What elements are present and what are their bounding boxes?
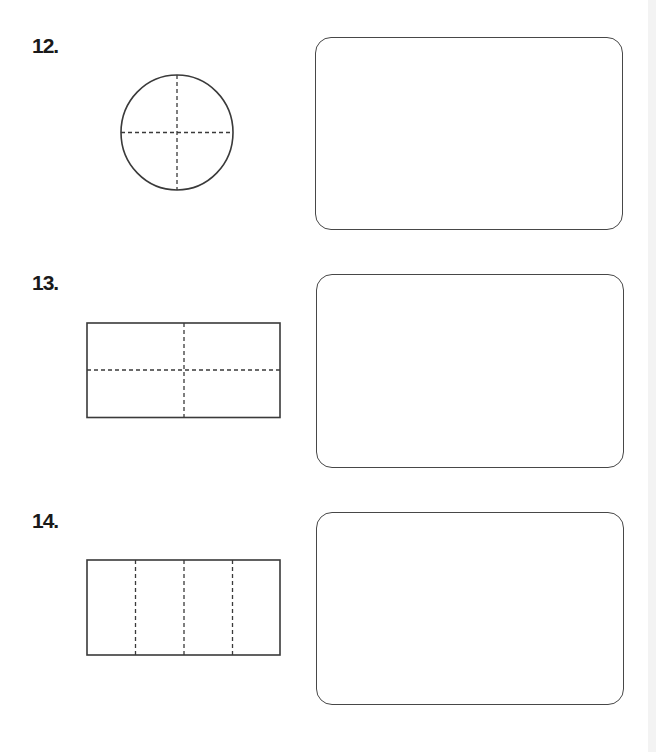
question-number-13: 13. [32, 272, 58, 293]
page-edge-strip [648, 0, 656, 752]
answer-box-12[interactable] [315, 37, 623, 230]
answer-box-14[interactable] [316, 512, 624, 705]
question-number-12: 12. [32, 35, 58, 56]
rectangle-divided-into-quarters [86, 322, 282, 420]
question-number-14: 14. [32, 510, 58, 531]
answer-box-13[interactable] [316, 274, 624, 468]
rectangle-divided-into-four-columns [86, 559, 282, 657]
circle-divided-into-quarters [118, 72, 238, 194]
